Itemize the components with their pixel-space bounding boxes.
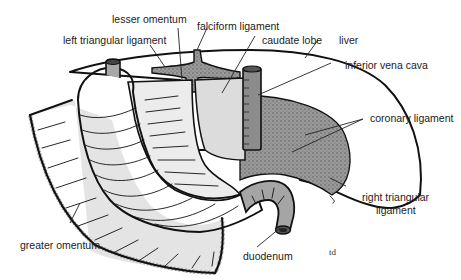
label-right-triangular-ligament-1: right triangular [362,191,430,203]
label-coronary-ligament: coronary ligament [370,112,454,124]
label-liver: liver [339,34,359,46]
label-greater-omentum: greater omentum [20,239,100,251]
duodenum [240,181,294,234]
label-caudate-lobe: caudate lobe [262,34,322,46]
label-left-triangular-ligament: left triangular ligament [63,34,166,46]
label-right-triangular-ligament-2: ligament [376,204,416,216]
label-lesser-omentum: lesser omentum [112,13,187,25]
label-inferior-vena-cava: inferior vena cava [345,59,428,71]
anatomy-diagram: lesser omentum falciform ligament left t… [0,0,461,280]
inferior-vena-cava [243,66,261,150]
caudate-lobe [195,78,245,160]
artist-signature: td [329,247,337,257]
label-falciform-ligament: falciform ligament [197,20,279,32]
label-duodenum: duodenum [243,250,293,262]
